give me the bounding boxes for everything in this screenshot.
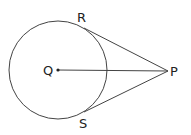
label-q: Q [43, 63, 53, 78]
tangent-diagram: R Q P S [0, 0, 191, 135]
tangent-segment-pr [84, 28, 168, 71]
label-p: P [170, 64, 178, 79]
center-point-q [56, 68, 59, 71]
segment-qp [58, 70, 168, 71]
tangent-segment-ps [84, 71, 168, 112]
label-r: R [77, 10, 86, 25]
label-s: S [79, 116, 87, 131]
